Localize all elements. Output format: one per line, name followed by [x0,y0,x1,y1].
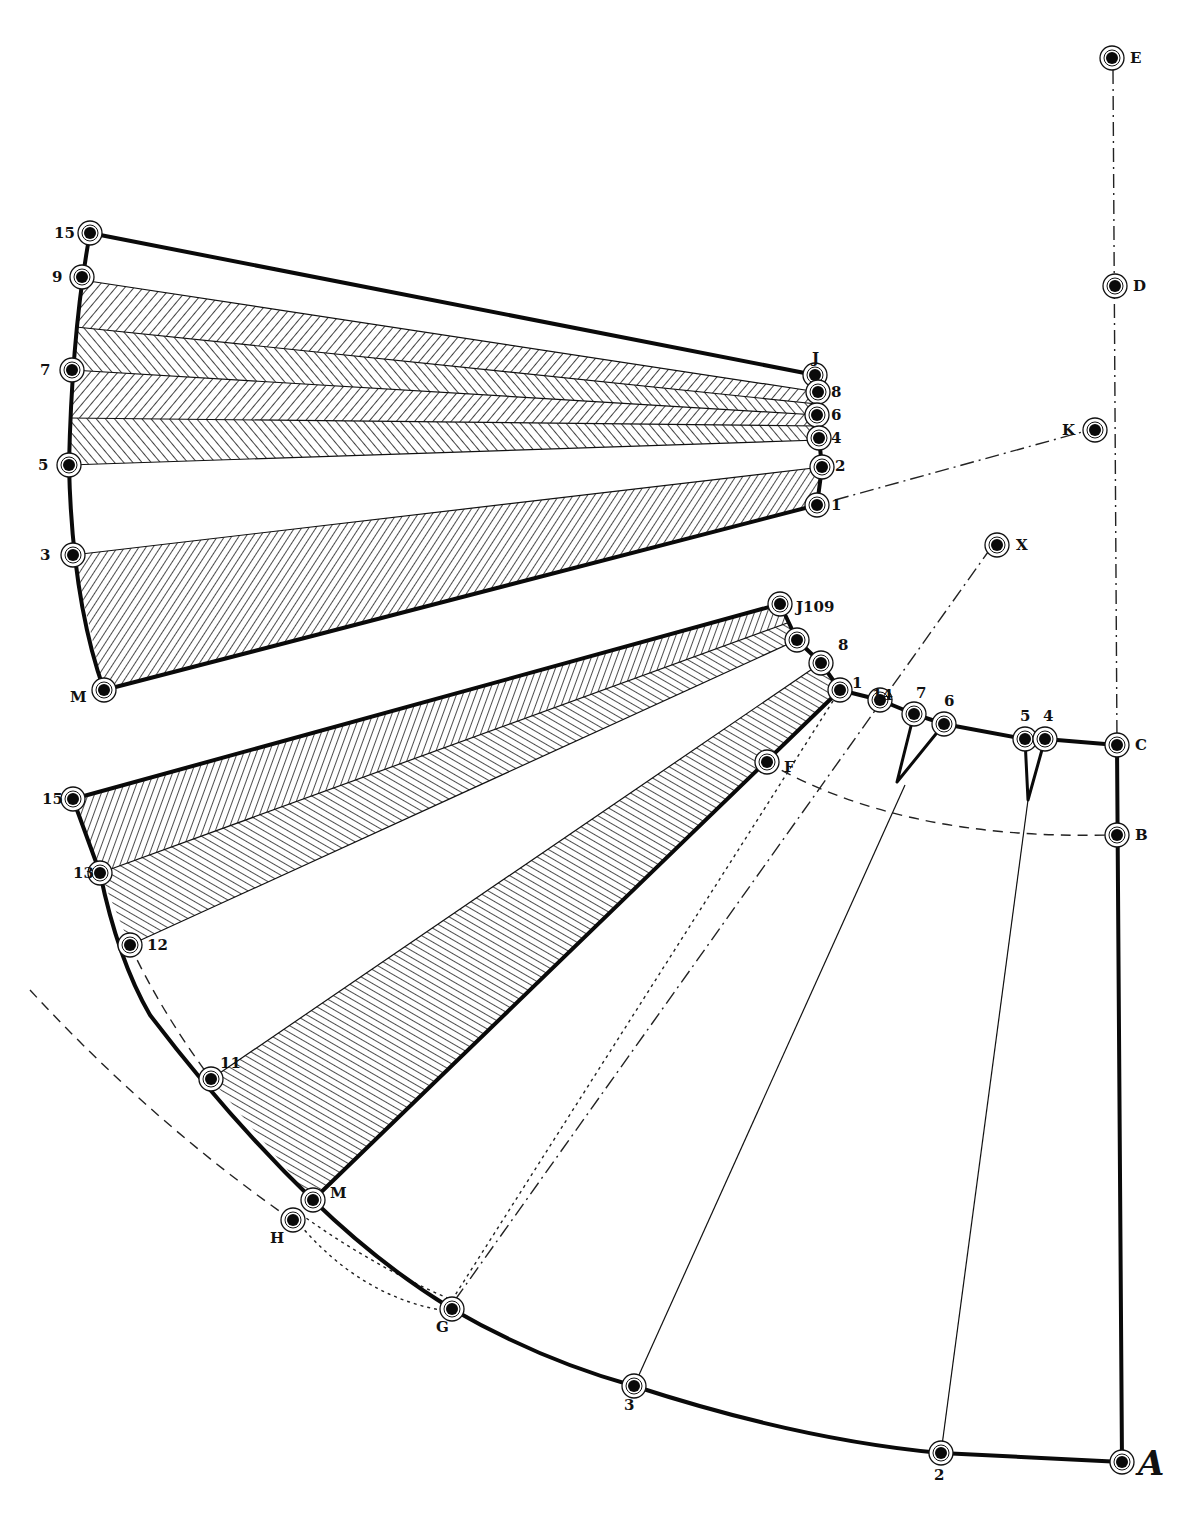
point-label: 4 [1043,707,1053,725]
point-label: B [1135,826,1148,844]
guide-line-1-to-k [835,432,1082,500]
point-k: K [1062,418,1107,442]
point-label: M [70,688,87,706]
point-p2: 2 [929,1441,953,1484]
point-label: 2 [934,1466,944,1484]
point-label: 5 [38,456,48,474]
point-f: F [755,750,795,776]
line-3-to-7 [634,785,905,1386]
point-label: 13 [73,864,94,882]
point-label: 15 [54,224,75,242]
point-p3: 3 [622,1374,646,1414]
point-label: 11 [220,1054,241,1072]
point-p3a: 3 [40,543,85,567]
point-label: 3 [40,546,50,564]
point-d: D [1103,274,1146,298]
point-label: 14 [872,686,893,704]
point-p7a: 7 [40,358,84,382]
point-label: 8 [831,383,841,401]
skirt-pattern-diagram: EDKXCBA23GHM11121315F18J109147654M357915… [0,0,1196,1518]
point-p5a: 5 [38,453,81,477]
point-b: B [1105,823,1148,847]
point-x: X [985,533,1028,557]
point-c: C [1105,733,1147,757]
point-label: A [1135,1443,1164,1483]
point-p4b: 4 [1033,707,1057,751]
point-label: 1 [852,674,862,692]
point-p1a: 1 [805,493,841,517]
point-h: H [270,1208,305,1247]
point-p13: 13 [73,861,112,885]
point-label: 6 [944,692,954,710]
point-label: 2 [835,457,845,475]
line-2-to-5 [941,800,1028,1453]
point-p8a: 8 [806,380,841,404]
point-p7b: 7 [902,684,926,726]
point-label: M [330,1184,347,1202]
point-m1: M [70,678,116,706]
arc-12-to-11 [130,945,211,1079]
point-label: 6 [831,406,841,424]
point-label: E [1130,49,1141,67]
point-label: 3 [624,1396,634,1414]
point-p2a: 2 [810,455,845,479]
point-label: 5 [1020,707,1030,725]
point-p15: 15 [42,787,85,811]
arc-h-to-g-inner [300,1225,440,1310]
arc-f-to-b [767,762,1110,835]
center-guide-line [1113,70,1117,745]
point-p15a: 15 [54,221,102,245]
point-label: 12 [147,936,168,954]
point-p9a: 9 [52,265,94,289]
point-p8b: 8 [809,636,848,675]
point-label: 15 [42,790,63,808]
point-label: J109 [794,598,834,616]
point-label: J [810,349,819,367]
point-label: 8 [838,636,848,654]
point-label: 4 [831,429,841,447]
point-label: D [1133,277,1146,295]
point-p14: 14 [868,686,893,712]
point-e: E [1100,46,1141,70]
point-p6a: 6 [805,403,841,427]
guide-lines [30,70,1117,1453]
point-label: 9 [52,268,62,286]
point-label: F [784,758,795,776]
point-label: K [1062,421,1076,439]
point-label: 1 [831,496,841,514]
point-p4a: 4 [807,426,841,450]
upper-fan-panel [69,233,822,690]
point-label: H [270,1229,284,1247]
point-p5b: 5 [1013,707,1037,751]
point-p9b [785,628,809,652]
point-label: C [1135,736,1147,754]
skirt-outline [73,604,1122,1462]
point-j2: J109 [768,592,834,616]
point-p6b: 6 [932,692,956,736]
point-label: X [1016,536,1028,554]
point-label: 7 [916,684,926,702]
point-a: A [1110,1443,1164,1483]
point-label: 7 [40,361,50,379]
point-label: G [436,1318,449,1336]
